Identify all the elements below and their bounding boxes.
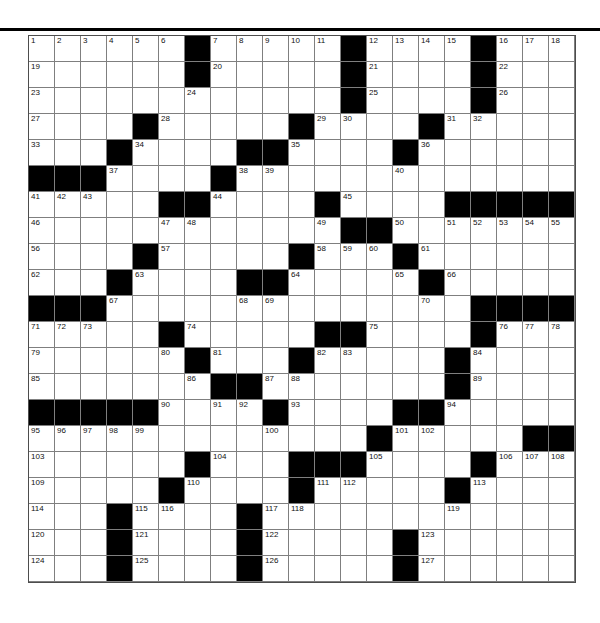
white-cell[interactable] (445, 556, 471, 582)
white-cell[interactable]: 20 (211, 62, 237, 88)
white-cell[interactable] (107, 322, 133, 348)
white-cell[interactable] (445, 530, 471, 556)
white-cell[interactable] (289, 192, 315, 218)
white-cell[interactable]: 84 (471, 348, 497, 374)
white-cell[interactable]: 57 (159, 244, 185, 270)
white-cell[interactable] (263, 348, 289, 374)
white-cell[interactable] (445, 88, 471, 114)
white-cell[interactable]: 81 (211, 348, 237, 374)
white-cell[interactable]: 51 (445, 218, 471, 244)
white-cell[interactable]: 58 (315, 244, 341, 270)
white-cell[interactable] (471, 270, 497, 296)
white-cell[interactable] (55, 530, 81, 556)
white-cell[interactable] (367, 296, 393, 322)
white-cell[interactable] (211, 88, 237, 114)
white-cell[interactable] (81, 452, 107, 478)
white-cell[interactable]: 54 (523, 218, 549, 244)
white-cell[interactable]: 9 (263, 36, 289, 62)
white-cell[interactable]: 126 (263, 556, 289, 582)
white-cell[interactable]: 104 (211, 452, 237, 478)
white-cell[interactable] (471, 166, 497, 192)
white-cell[interactable] (55, 88, 81, 114)
white-cell[interactable]: 45 (341, 192, 367, 218)
white-cell[interactable]: 97 (81, 426, 107, 452)
white-cell[interactable]: 43 (81, 192, 107, 218)
white-cell[interactable]: 90 (159, 400, 185, 426)
white-cell[interactable] (445, 322, 471, 348)
white-cell[interactable]: 39 (263, 166, 289, 192)
white-cell[interactable] (55, 114, 81, 140)
white-cell[interactable] (549, 400, 575, 426)
white-cell[interactable] (523, 62, 549, 88)
white-cell[interactable] (393, 62, 419, 88)
white-cell[interactable] (55, 218, 81, 244)
white-cell[interactable]: 27 (29, 114, 55, 140)
white-cell[interactable] (107, 218, 133, 244)
white-cell[interactable] (471, 530, 497, 556)
white-cell[interactable]: 105 (367, 452, 393, 478)
white-cell[interactable] (497, 530, 523, 556)
white-cell[interactable]: 93 (289, 400, 315, 426)
white-cell[interactable] (211, 504, 237, 530)
white-cell[interactable]: 29 (315, 114, 341, 140)
white-cell[interactable] (497, 478, 523, 504)
white-cell[interactable] (523, 114, 549, 140)
white-cell[interactable] (445, 296, 471, 322)
white-cell[interactable] (341, 400, 367, 426)
white-cell[interactable] (185, 556, 211, 582)
white-cell[interactable] (211, 322, 237, 348)
white-cell[interactable] (55, 504, 81, 530)
white-cell[interactable] (237, 478, 263, 504)
white-cell[interactable]: 95 (29, 426, 55, 452)
white-cell[interactable] (549, 62, 575, 88)
white-cell[interactable] (289, 530, 315, 556)
white-cell[interactable] (81, 504, 107, 530)
white-cell[interactable]: 23 (29, 88, 55, 114)
white-cell[interactable] (211, 556, 237, 582)
white-cell[interactable] (159, 270, 185, 296)
white-cell[interactable]: 68 (237, 296, 263, 322)
white-cell[interactable] (367, 530, 393, 556)
white-cell[interactable]: 67 (107, 296, 133, 322)
white-cell[interactable] (549, 114, 575, 140)
white-cell[interactable] (341, 296, 367, 322)
white-cell[interactable] (445, 166, 471, 192)
white-cell[interactable]: 40 (393, 166, 419, 192)
white-cell[interactable] (107, 114, 133, 140)
white-cell[interactable] (263, 192, 289, 218)
white-cell[interactable]: 42 (55, 192, 81, 218)
white-cell[interactable] (549, 504, 575, 530)
white-cell[interactable]: 107 (523, 452, 549, 478)
white-cell[interactable] (315, 400, 341, 426)
white-cell[interactable] (341, 270, 367, 296)
white-cell[interactable] (211, 530, 237, 556)
white-cell[interactable] (55, 140, 81, 166)
white-cell[interactable] (185, 296, 211, 322)
white-cell[interactable]: 108 (549, 452, 575, 478)
white-cell[interactable] (523, 478, 549, 504)
white-cell[interactable]: 102 (419, 426, 445, 452)
white-cell[interactable] (263, 478, 289, 504)
white-cell[interactable] (497, 556, 523, 582)
white-cell[interactable] (471, 244, 497, 270)
white-cell[interactable] (367, 556, 393, 582)
white-cell[interactable] (393, 478, 419, 504)
white-cell[interactable]: 127 (419, 556, 445, 582)
white-cell[interactable] (81, 348, 107, 374)
white-cell[interactable] (445, 140, 471, 166)
white-cell[interactable]: 86 (185, 374, 211, 400)
white-cell[interactable] (133, 218, 159, 244)
white-cell[interactable] (523, 88, 549, 114)
white-cell[interactable] (367, 114, 393, 140)
white-cell[interactable]: 17 (523, 36, 549, 62)
white-cell[interactable] (341, 374, 367, 400)
white-cell[interactable] (107, 62, 133, 88)
white-cell[interactable]: 118 (289, 504, 315, 530)
white-cell[interactable]: 30 (341, 114, 367, 140)
white-cell[interactable] (185, 166, 211, 192)
white-cell[interactable]: 87 (263, 374, 289, 400)
white-cell[interactable]: 85 (29, 374, 55, 400)
white-cell[interactable] (107, 478, 133, 504)
white-cell[interactable] (81, 270, 107, 296)
white-cell[interactable]: 12 (367, 36, 393, 62)
